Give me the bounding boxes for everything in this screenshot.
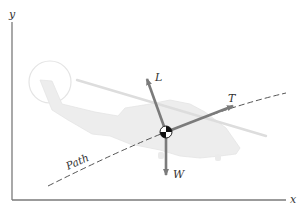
helicopter-silhouette <box>29 61 266 161</box>
center-of-mass-icon <box>160 126 172 138</box>
diagram-canvas: y x Path L T W <box>0 0 300 212</box>
y-axis-label: y <box>8 8 16 21</box>
thrust-label: T <box>228 92 237 105</box>
x-axis-label: x <box>290 193 297 206</box>
lift-label: L <box>154 71 162 84</box>
weight-label: W <box>173 168 186 181</box>
path-label: Path <box>63 151 91 172</box>
